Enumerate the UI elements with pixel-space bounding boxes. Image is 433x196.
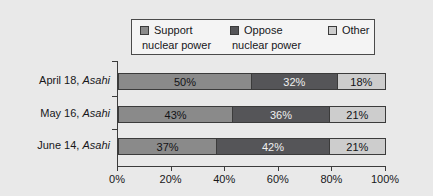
bar-segment-value: 21% bbox=[346, 109, 368, 121]
x-axis-tick-label: 20% bbox=[160, 173, 182, 185]
legend-label-other-line1: Other bbox=[342, 24, 370, 37]
x-axis-tick bbox=[385, 166, 386, 171]
bar-segment-oppose: 32% bbox=[252, 73, 338, 90]
category-source-0: Asahi bbox=[82, 74, 110, 86]
plot-area: 50% 32% 18% 43% 36% 21% 37% bbox=[117, 61, 386, 167]
y-axis-tick bbox=[112, 129, 117, 130]
x-axis-tick-label: 0% bbox=[109, 173, 125, 185]
legend-label-support-line2: nuclear power bbox=[142, 38, 211, 52]
category-label-april-18: April 18, Asahi bbox=[39, 74, 110, 86]
bar-segment-oppose: 36% bbox=[233, 106, 329, 123]
x-axis-tick-label: 80% bbox=[320, 173, 342, 185]
category-date-1: May 16, bbox=[40, 107, 79, 119]
legend-swatch-support-icon bbox=[140, 26, 149, 35]
legend-swatch-other-icon bbox=[328, 26, 337, 35]
x-axis-tick bbox=[278, 166, 279, 171]
legend-swatch-oppose-icon bbox=[230, 26, 239, 35]
bar-segment-other: 21% bbox=[330, 106, 386, 123]
x-axis-tick bbox=[117, 166, 118, 171]
bar-segment-other: 18% bbox=[338, 73, 386, 90]
bar-segment-oppose: 42% bbox=[217, 138, 330, 155]
category-source-2: Asahi bbox=[82, 139, 110, 151]
category-label-june-14: June 14, Asahi bbox=[37, 139, 110, 151]
bar-segment-value: 43% bbox=[165, 109, 187, 121]
category-date-0: April 18, bbox=[39, 74, 79, 86]
legend-label-oppose-line2: nuclear power bbox=[232, 38, 301, 52]
x-axis-tick-label: 40% bbox=[213, 173, 235, 185]
bar-row: 43% 36% 21% bbox=[118, 106, 386, 123]
legend-label-support-line1: Support bbox=[154, 24, 193, 37]
legend-item-support: Support nuclear power bbox=[140, 24, 211, 52]
stacked-bar-chart: Support nuclear power Oppose nuclear pow… bbox=[0, 0, 433, 196]
bar-row: 50% 32% 18% bbox=[118, 73, 386, 90]
category-label-may-16: May 16, Asahi bbox=[40, 107, 110, 119]
x-axis-tick-label: 60% bbox=[267, 173, 289, 185]
category-date-2: June 14, bbox=[37, 139, 79, 151]
bar-segment-value: 36% bbox=[270, 109, 292, 121]
legend-item-other: Other bbox=[328, 24, 370, 37]
x-axis-tick bbox=[171, 166, 172, 171]
bar-segment-other: 21% bbox=[330, 138, 386, 155]
bar-segment-support: 43% bbox=[118, 106, 233, 123]
bar-segment-value: 21% bbox=[346, 141, 368, 153]
y-axis-tick bbox=[112, 61, 117, 62]
legend-item-oppose: Oppose nuclear power bbox=[230, 24, 301, 52]
y-axis-tick bbox=[112, 96, 117, 97]
chart-legend: Support nuclear power Oppose nuclear pow… bbox=[131, 19, 375, 55]
x-axis-tick-label: 100% bbox=[371, 173, 399, 185]
bar-segment-value: 32% bbox=[283, 76, 305, 88]
category-source-1: Asahi bbox=[82, 107, 110, 119]
bar-segment-value: 37% bbox=[157, 141, 179, 153]
bar-segment-value: 42% bbox=[262, 141, 284, 153]
x-axis-tick bbox=[331, 166, 332, 171]
bar-segment-support: 37% bbox=[118, 138, 217, 155]
bar-segment-support: 50% bbox=[118, 73, 252, 90]
bar-segment-value: 18% bbox=[350, 76, 372, 88]
bar-row: 37% 42% 21% bbox=[118, 138, 386, 155]
bar-segment-value: 50% bbox=[174, 76, 196, 88]
x-axis-tick bbox=[224, 166, 225, 171]
legend-label-oppose-line1: Oppose bbox=[244, 24, 283, 37]
x-axis-line bbox=[117, 166, 386, 167]
